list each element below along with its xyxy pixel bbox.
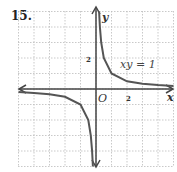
origin-label: O: [98, 92, 107, 105]
equation-label: xy = 1: [120, 58, 156, 71]
y-axis-label: y: [101, 11, 110, 24]
hyperbola-graph: y x O 2 2 xy = 1: [0, 0, 177, 172]
y-axis: [92, 7, 100, 167]
x-axis-label: x: [166, 91, 174, 104]
x-tick-label-2: 2: [126, 94, 131, 103]
y-tick-label-2: 2: [86, 55, 91, 64]
curve-branch-q1: [99, 12, 173, 86]
curve-branch-q3: [19, 92, 93, 166]
